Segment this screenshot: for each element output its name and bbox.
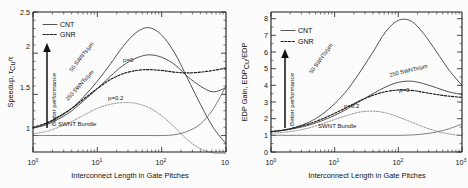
right-ytick-7: 7 xyxy=(264,31,268,40)
right-gnr-p0-label: p=0 xyxy=(399,86,410,93)
right-xtick-1e2: 102 xyxy=(393,157,404,167)
right-ytick-8: 8 xyxy=(264,14,268,23)
right-legend-label-cnt: CNT xyxy=(298,27,313,34)
right-xtick-1e1: 101 xyxy=(329,157,340,167)
curve-50-swnts-m xyxy=(271,19,462,131)
left-cnt-50-label: 50 SWNTs/µm xyxy=(68,40,95,72)
right-ytick-3: 3 xyxy=(264,98,268,107)
right-legend-label-gnr: GNR xyxy=(298,38,314,45)
edp-chart-svg: 012345678 100 101 102 103 Interconnect L… xyxy=(234,0,468,188)
curve-p-0-2 xyxy=(33,103,226,154)
left-cnt-250-label: 250 SWNTs/µm xyxy=(64,68,95,101)
right-cnt-50-label: 50 SWNTs/µm xyxy=(308,42,334,75)
right-ytick-4: 4 xyxy=(264,81,268,90)
left-gnr-p02-label: p=0.2 xyxy=(108,94,124,101)
right-ytick-0: 0 xyxy=(264,148,268,157)
curve-p-0-2 xyxy=(271,111,462,136)
curve-swnt-bundle xyxy=(33,86,226,135)
left-xtick-1e0: 100 xyxy=(28,157,39,167)
right-xtick-1e3: 103 xyxy=(456,157,467,167)
right-gnr-p02-label: p=0.2 xyxy=(344,102,360,109)
left-ytick-1: 1 xyxy=(26,124,30,133)
left-gnr-p0-label: p=0 xyxy=(123,56,134,63)
left-xaxis-title: Interconnect Length in Gate Pitches xyxy=(71,171,189,180)
left-xtick-1e3: 10 xyxy=(221,158,229,167)
right-swnt-bundle-label: SWNT Bundle xyxy=(318,122,357,129)
figure-container: 2.5 2 1.5 1 100 101 102 10 Interconnect … xyxy=(0,0,468,188)
left-legend-label-cnt: CNT xyxy=(60,21,75,28)
right-ytick-labels: 012345678 xyxy=(264,14,268,156)
left-legend-label-gnr: GNR xyxy=(60,31,76,38)
curve-250-swnts-m xyxy=(271,81,462,132)
left-ytick-2: 2 xyxy=(26,42,30,51)
right-cnt-250-label: 250 SWNTs/µm xyxy=(389,63,429,78)
left-better-performance-label: Better performance xyxy=(50,72,57,126)
right-xtick-1e0: 100 xyxy=(266,157,277,167)
right-yaxis-title: EDP Gain, EDPCu/EDP xyxy=(240,43,251,122)
right-ytick-1: 1 xyxy=(264,131,268,140)
left-ytick-1.5: 1.5 xyxy=(20,83,30,92)
left-xtick-1e1: 101 xyxy=(92,157,103,167)
speedup-chart-svg: 2.5 2 1.5 1 100 101 102 10 Interconnect … xyxy=(0,0,234,188)
left-swnt-bundle-label: SWNT Bundle xyxy=(58,120,97,127)
right-better-performance-label: Better performance xyxy=(288,72,295,126)
right-better-performance-arrowhead xyxy=(281,49,289,58)
left-yaxis-title: Speedup, τCu/τ xyxy=(6,56,17,107)
right-xaxis-title: Interconnect Length in Gate Pitches xyxy=(308,171,426,180)
right-ytick-5: 5 xyxy=(264,64,268,73)
left-curves xyxy=(33,28,226,154)
chart-panel-edp-gain: 012345678 100 101 102 103 Interconnect L… xyxy=(234,0,468,188)
right-ytick-2: 2 xyxy=(264,114,268,123)
left-better-performance-arrowhead xyxy=(43,43,51,52)
left-xtick-1e2: 102 xyxy=(156,157,167,167)
curve-250-swnts-m xyxy=(33,55,226,128)
left-ytick-2.5: 2.5 xyxy=(20,8,30,17)
chart-panel-speedup: 2.5 2 1.5 1 100 101 102 10 Interconnect … xyxy=(0,0,234,188)
right-curves xyxy=(271,19,462,135)
curve-p-0 xyxy=(271,90,462,132)
right-ytick-6: 6 xyxy=(264,48,268,57)
